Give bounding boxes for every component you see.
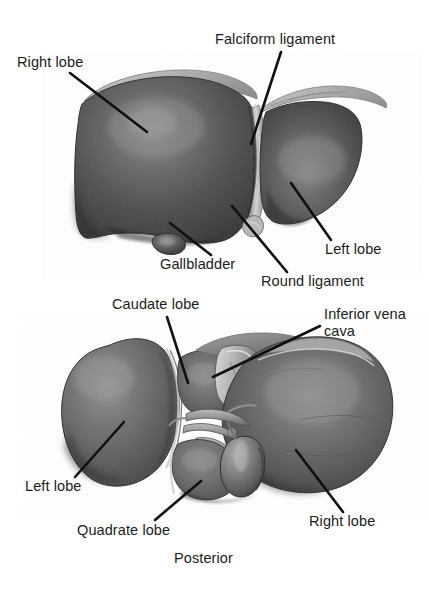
label-right-lobe-posterior: Right lobe xyxy=(309,513,375,529)
anterior-liver-drawing xyxy=(74,70,390,260)
label-left-lobe-posterior: Left lobe xyxy=(25,478,82,494)
label-orientation-posterior: Posterior xyxy=(174,550,233,566)
label-inferior-vena-cava-line2: cava xyxy=(324,323,355,339)
label-caudate-lobe: Caudate lobe xyxy=(112,296,199,312)
label-left-lobe-anterior: Left lobe xyxy=(325,241,382,257)
label-inferior-vena-cava-line1: Inferior vena xyxy=(324,306,406,322)
label-quadrate-lobe: Quadrate lobe xyxy=(77,522,170,538)
posterior-liver-drawing xyxy=(58,330,400,503)
liver-illustration xyxy=(0,0,429,590)
liver-anatomy-figure: Right lobe Falciform ligament Left lobe … xyxy=(0,0,429,590)
label-right-lobe-anterior: Right lobe xyxy=(17,54,83,70)
posterior-texture xyxy=(58,330,400,502)
label-round-ligament: Round ligament xyxy=(261,273,364,289)
anterior-texture xyxy=(74,70,390,260)
label-falciform-ligament: Falciform ligament xyxy=(215,31,335,47)
label-gallbladder: Gallbladder xyxy=(160,256,235,272)
